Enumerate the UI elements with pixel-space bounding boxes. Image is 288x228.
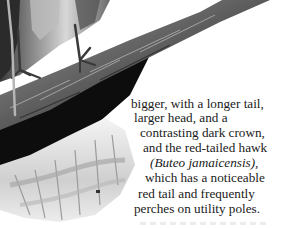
- text-line: which has a noticeable: [145, 170, 265, 185]
- text-line: perches on utility poles.: [134, 201, 260, 216]
- text-line: contrasting dark crown,: [140, 125, 265, 140]
- text-line: bigger, with a longer tail,: [131, 96, 264, 111]
- text-line: larger head, and a: [134, 110, 227, 125]
- species-name: (Buteo jamaicensis),: [150, 155, 258, 170]
- text-line: and the red-tailed hawk: [143, 140, 267, 155]
- text-line: red tail and frequently: [138, 186, 255, 201]
- faded-text-remnant: [140, 222, 270, 225]
- body-text: bigger, with a longer tail, larger head,…: [0, 0, 288, 228]
